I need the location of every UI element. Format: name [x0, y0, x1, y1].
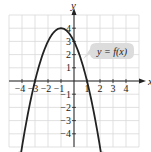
y-tick-label: −4	[60, 128, 71, 139]
function-label-callout: y = f(x)	[83, 43, 134, 59]
x-tick-label: 2	[98, 83, 103, 94]
x-tick-label: 4	[124, 83, 129, 94]
function-graph: −4−3−2−11234−4−3−2−11234 y = f(x) x y	[0, 0, 151, 152]
y-tick-label: −3	[60, 115, 71, 126]
x-axis-label: x	[147, 75, 151, 87]
x-tick-label: −4	[15, 83, 26, 94]
x-tick-label: 3	[111, 83, 116, 94]
function-label: y = f(x)	[96, 46, 128, 58]
y-tick-label: −1	[60, 89, 71, 100]
y-tick-label: −2	[60, 102, 71, 113]
y-tick-label: 1	[66, 62, 71, 73]
x-axis-arrow-icon	[139, 79, 146, 84]
y-tick-label: 2	[66, 49, 71, 60]
axes	[9, 8, 146, 147]
x-tick-label: −2	[41, 83, 52, 94]
y-axis-label: y	[70, 0, 76, 11]
y-tick-label: 3	[66, 36, 71, 47]
